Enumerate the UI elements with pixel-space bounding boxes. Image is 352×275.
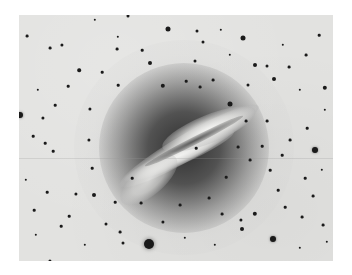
star bbox=[195, 147, 198, 150]
star bbox=[305, 54, 308, 57]
star bbox=[92, 193, 96, 197]
star bbox=[284, 206, 287, 209]
star bbox=[288, 66, 291, 69]
star bbox=[185, 80, 188, 83]
star bbox=[270, 236, 276, 242]
star bbox=[306, 127, 309, 130]
star bbox=[318, 34, 321, 37]
star bbox=[68, 215, 71, 218]
star bbox=[33, 209, 36, 212]
star bbox=[240, 227, 244, 231]
scan-artifact bbox=[19, 158, 333, 159]
star bbox=[117, 84, 120, 87]
star bbox=[44, 142, 47, 145]
star bbox=[141, 49, 144, 52]
star bbox=[277, 189, 280, 192]
star bbox=[301, 216, 304, 219]
star bbox=[247, 84, 250, 87]
star bbox=[179, 204, 182, 207]
star bbox=[119, 231, 122, 234]
star bbox=[32, 135, 35, 138]
star bbox=[105, 223, 108, 226]
star bbox=[52, 150, 55, 153]
star bbox=[114, 201, 117, 204]
star bbox=[322, 224, 325, 227]
star bbox=[281, 154, 284, 157]
star bbox=[261, 145, 264, 148]
star bbox=[196, 30, 199, 33]
star bbox=[49, 47, 52, 50]
star bbox=[46, 191, 49, 194]
star bbox=[60, 225, 63, 228]
star bbox=[26, 35, 29, 38]
star bbox=[194, 60, 197, 63]
star bbox=[304, 177, 307, 180]
star bbox=[208, 197, 211, 200]
star bbox=[131, 177, 134, 180]
star bbox=[312, 195, 315, 198]
star bbox=[116, 48, 119, 51]
star bbox=[140, 202, 143, 205]
star bbox=[266, 120, 269, 123]
star bbox=[241, 36, 246, 41]
star bbox=[77, 68, 81, 72]
star bbox=[228, 102, 233, 107]
star bbox=[212, 79, 215, 82]
star bbox=[221, 213, 224, 216]
star bbox=[253, 63, 257, 67]
star bbox=[91, 167, 94, 170]
star bbox=[148, 61, 152, 65]
star bbox=[48, 259, 51, 261]
star bbox=[272, 77, 276, 81]
star bbox=[202, 41, 205, 44]
star bbox=[67, 85, 70, 88]
star bbox=[122, 242, 125, 245]
star bbox=[166, 27, 171, 32]
star bbox=[289, 139, 292, 142]
star bbox=[269, 169, 272, 172]
star bbox=[54, 104, 57, 107]
star bbox=[249, 159, 252, 162]
star bbox=[225, 176, 228, 179]
star bbox=[266, 65, 269, 68]
star bbox=[144, 239, 154, 249]
star bbox=[245, 120, 248, 123]
star bbox=[312, 147, 318, 153]
star bbox=[101, 71, 104, 74]
galaxy-photograph bbox=[19, 15, 333, 261]
star bbox=[199, 86, 202, 89]
star bbox=[237, 146, 240, 149]
